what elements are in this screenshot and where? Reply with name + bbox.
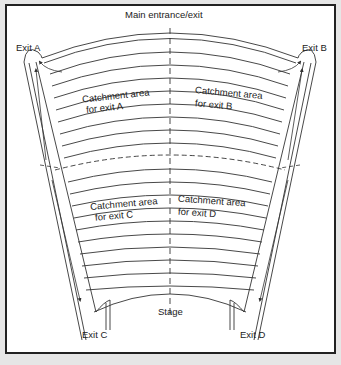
exit-a-label: Exit A	[16, 43, 40, 53]
exit-d-label: Exit D	[240, 330, 265, 340]
top-wall	[42, 33, 298, 58]
stage-label: Stage	[158, 307, 183, 317]
main-entrance-label: Main entrance/exit	[125, 10, 203, 20]
right-wall	[258, 62, 316, 340]
exit-c-label: Exit C	[82, 330, 107, 340]
catchment-d-line2: for exit D	[178, 207, 217, 219]
exit-b-label: Exit B	[302, 43, 327, 53]
left-wall	[24, 62, 82, 340]
